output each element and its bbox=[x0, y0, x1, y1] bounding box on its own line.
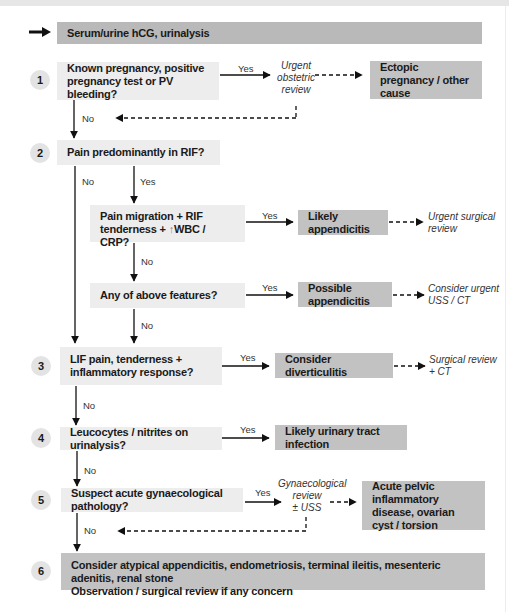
right-arrow-icon bbox=[29, 27, 51, 37]
step-4-question: Leucocytes / nitrites on urinalysis? bbox=[60, 427, 222, 450]
step-4-yes-label: Yes bbox=[240, 424, 256, 435]
step-5-text: Suspect acute gynaecological pathology? bbox=[71, 487, 233, 513]
likely-appendicitis-text: Likely appendicitis bbox=[308, 210, 378, 236]
consider-urgent-uss-ct: Consider urgent USS / CT bbox=[428, 283, 499, 307]
uti-text: Likely urinary tract infection bbox=[285, 425, 397, 451]
step-2-question: Pain predominantly in RIF? bbox=[57, 140, 220, 165]
step-1-text: Known pregnancy, positive pregnancy test… bbox=[67, 62, 209, 101]
step-3-question: LIF pain, tenderness + inflammatory resp… bbox=[60, 347, 222, 385]
any-features-yes-label: Yes bbox=[262, 282, 278, 293]
step-number-5: 5 bbox=[31, 490, 51, 510]
step-3-yes-label: Yes bbox=[240, 352, 256, 363]
step-4-text: Leucocytes / nitrites on urinalysis? bbox=[70, 426, 212, 452]
ectopic-pregnancy-result: Ectopic pregnancy / other cause bbox=[370, 61, 482, 99]
step-1-no-label: No bbox=[82, 113, 94, 124]
step-6-line-1: Consider atypical appendicitis, endometr… bbox=[71, 559, 475, 585]
step-1-question: Known pregnancy, positive pregnancy test… bbox=[57, 62, 219, 100]
step-5-yes-label: Yes bbox=[255, 487, 271, 498]
step-number-1: 1 bbox=[30, 70, 50, 90]
step-5-no-label: No bbox=[84, 525, 96, 536]
diverticulitis-result: Consider diverticulitis bbox=[275, 353, 393, 378]
step-number-4: 4 bbox=[31, 428, 51, 448]
ectopic-text: Ectopic pregnancy / other cause bbox=[380, 61, 472, 100]
pain-migration-question: Pain migration + RIF tenderness + ↑WBC /… bbox=[90, 205, 245, 242]
step-6-line-2: Observation / surgical review if any con… bbox=[71, 585, 475, 598]
initial-tests-bar: Serum/urine hCG, urinalysis bbox=[57, 22, 482, 44]
any-features-question: Any of above features? bbox=[90, 283, 245, 308]
urgent-obstetric-review: Urgent obstetric review bbox=[271, 60, 321, 96]
urgent-surgical-review: Urgent surgical review bbox=[428, 211, 495, 235]
possible-appendicitis-result: Possible appendicitis bbox=[298, 282, 392, 307]
urgent-surgical-line-2: review bbox=[428, 223, 495, 235]
gynae-line-2: review bbox=[278, 490, 336, 502]
step-3-no-label: No bbox=[83, 400, 95, 411]
step-1-yes-label: Yes bbox=[238, 63, 254, 74]
likely-appendicitis-result: Likely appendicitis bbox=[298, 210, 388, 235]
obstetric-line-3: review bbox=[271, 84, 321, 96]
step-5-question: Suspect acute gynaecological pathology? bbox=[61, 488, 243, 512]
pelvic-result: Acute pelvic inflammatory disease, ovari… bbox=[362, 481, 485, 530]
diverticulitis-text: Consider diverticulitis bbox=[285, 353, 383, 379]
obstetric-line-2: obstetric bbox=[271, 72, 321, 84]
step-number-2: 2 bbox=[30, 143, 50, 163]
gynae-line-3: ± USS bbox=[278, 502, 336, 514]
urgent-surgical-line-1: Urgent surgical bbox=[428, 211, 495, 223]
step-6-conclusion: Consider atypical appendicitis, endometr… bbox=[61, 553, 485, 590]
uti-result: Likely urinary tract infection bbox=[275, 425, 407, 450]
pain-migration-yes-label: Yes bbox=[262, 210, 278, 221]
step-4-no-label: No bbox=[84, 465, 96, 476]
step-2-no-label: No bbox=[82, 176, 94, 187]
step-number-3: 3 bbox=[31, 356, 51, 376]
step-2-text: Pain predominantly in RIF? bbox=[67, 146, 204, 159]
consider-uss-line-2: USS / CT bbox=[428, 295, 499, 307]
any-features-text: Any of above features? bbox=[100, 289, 217, 302]
step-3-text: LIF pain, tenderness + inflammatory resp… bbox=[70, 353, 212, 379]
obstetric-line-1: Urgent bbox=[271, 60, 321, 72]
step-number-6: 6 bbox=[31, 561, 51, 581]
pelvic-text: Acute pelvic inflammatory disease, ovari… bbox=[372, 480, 475, 532]
surgical-review-ct: Surgical review + CT bbox=[429, 354, 497, 378]
any-features-no-label: No bbox=[141, 320, 153, 331]
surgical-ct-line-2: + CT bbox=[429, 366, 497, 378]
gynae-line-1: Gynaecological bbox=[278, 478, 336, 490]
consider-uss-line-1: Consider urgent bbox=[428, 283, 499, 295]
gynaecological-review: Gynaecological review ± USS bbox=[278, 478, 336, 514]
initial-tests-label: Serum/urine hCG, urinalysis bbox=[67, 27, 210, 40]
pain-migration-no-label: No bbox=[141, 256, 153, 267]
possible-appendicitis-text: Possible appendicitis bbox=[308, 282, 382, 308]
step-2-yes-label: Yes bbox=[140, 176, 156, 187]
surgical-ct-line-1: Surgical review bbox=[429, 354, 497, 366]
